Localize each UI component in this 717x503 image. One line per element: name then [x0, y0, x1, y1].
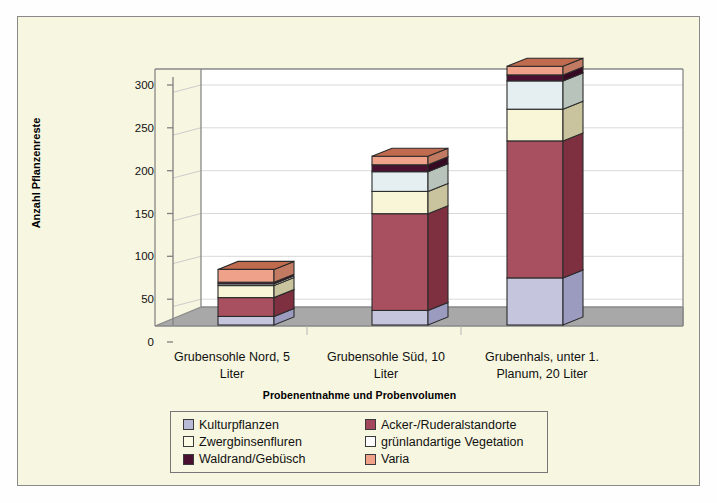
category-label-2-line1: Grubensohle Süd, 10 — [311, 349, 461, 366]
category-label-3-line1: Grubenhals, unter 1. — [462, 349, 622, 366]
legend-item-gruenlandartige-vegetation[interactable]: grünlandartige Vegetation — [365, 433, 547, 450]
legend-label-kulturpflanzen: Kulturpflanzen — [199, 418, 279, 432]
bar-3-seg-acker — [507, 141, 563, 278]
legend-item-kulturpflanzen[interactable]: Kulturpflanzen — [183, 416, 365, 433]
legend-label-zwergbinsenfluren: Zwergbinsenfluren — [199, 435, 302, 449]
left-wall — [155, 69, 201, 326]
legend-label-varia: Varia — [381, 452, 409, 466]
chart-legend: Kulturpflanzen Acker-/Ruderalstandorte Z… — [170, 411, 548, 473]
legend-label-waldrand-gebuesch: Waldrand/Gebüsch — [199, 452, 306, 466]
legend-label-gruenlandartige-vegetation: grünlandartige Vegetation — [381, 435, 523, 449]
bar-3-side-acker — [563, 133, 583, 278]
bar-2-seg-acker — [372, 214, 428, 311]
y-tick-labels: 300 250 200 150 100 50 0 — [114, 17, 154, 347]
legend-swatch-zwergbinsenfluren — [183, 436, 194, 447]
bar-2-seg-gruenland — [372, 172, 428, 192]
x-axis-title: Probenentnahme und Probenvolumen — [18, 389, 701, 401]
y-tick-0: 0 — [148, 336, 154, 348]
bar-2-seg-zwergbinsen — [372, 191, 428, 213]
category-label-2: Grubensohle Süd, 10 Liter — [311, 349, 461, 383]
y-tick-300: 300 — [135, 79, 154, 91]
bar-3-seg-kulturpflanzen — [507, 278, 563, 325]
bar-group-1 — [218, 261, 294, 325]
legend-item-varia[interactable]: Varia — [365, 451, 547, 468]
bar-3-seg-varia — [507, 66, 563, 75]
bar-3-side-kulturpflanzen — [563, 270, 583, 325]
bar-1-seg-zwergbinsen — [218, 286, 274, 298]
legend-swatch-acker-ruderalstandorte — [365, 419, 376, 430]
legend-swatch-gruenlandartige-vegetation — [365, 436, 376, 447]
bar-group-2 — [372, 148, 448, 325]
bar-1-seg-varia — [218, 269, 274, 282]
bar-3-seg-zwergbinsen — [507, 109, 563, 141]
bar-group-3 — [507, 58, 583, 325]
category-label-3-line2: Planum, 20 Liter — [462, 366, 622, 383]
y-tick-50: 50 — [141, 293, 154, 305]
legend-swatch-varia — [365, 454, 376, 465]
y-tick-100: 100 — [135, 250, 154, 262]
bar-1-seg-kulturpflanzen — [218, 316, 274, 325]
y-tick-250: 250 — [135, 122, 154, 134]
legend-item-zwergbinsenfluren[interactable]: Zwergbinsenfluren — [183, 433, 365, 450]
legend-grid: Kulturpflanzen Acker-/Ruderalstandorte Z… — [171, 412, 547, 472]
category-label-1: Grubensohle Nord, 5 Liter — [157, 349, 307, 383]
category-label-1-line2: Liter — [157, 366, 307, 383]
y-axis-title: Anzahl Pflanzenreste — [30, 93, 42, 253]
bar-2-seg-kulturpflanzen — [372, 310, 428, 325]
bar-3-seg-gruenland — [507, 81, 563, 109]
legend-swatch-kulturpflanzen — [183, 419, 194, 430]
chart-screenshot: 300 250 200 150 100 50 0 Anzahl Pflanzen… — [0, 0, 717, 503]
legend-swatch-waldrand-gebuesch — [183, 454, 194, 465]
y-tick-150: 150 — [135, 208, 154, 220]
legend-label-acker-ruderalstandorte: Acker-/Ruderalstandorte — [381, 418, 516, 432]
x-category-labels: Grubensohle Nord, 5 Liter Grubensohle Sü… — [18, 349, 701, 389]
legend-item-waldrand-gebuesch[interactable]: Waldrand/Gebüsch — [183, 451, 365, 468]
plot-area: 300 250 200 150 100 50 0 Anzahl Pflanzen… — [18, 17, 701, 347]
category-separators — [307, 326, 461, 335]
bar-2-seg-varia — [372, 156, 428, 165]
chart-frame: 300 250 200 150 100 50 0 Anzahl Pflanzen… — [17, 16, 700, 486]
category-label-2-line2: Liter — [311, 366, 461, 383]
legend-item-acker-ruderalstandorte[interactable]: Acker-/Ruderalstandorte — [365, 416, 547, 433]
bar-2-seg-waldrand — [372, 165, 428, 172]
category-label-1-line1: Grubensohle Nord, 5 — [157, 349, 307, 366]
category-label-3: Grubenhals, unter 1. Planum, 20 Liter — [462, 349, 622, 383]
y-tick-200: 200 — [135, 165, 154, 177]
bar-3-seg-waldrand — [507, 75, 563, 81]
bar-1-seg-acker — [218, 298, 274, 317]
bar-2-side-acker — [428, 206, 448, 311]
